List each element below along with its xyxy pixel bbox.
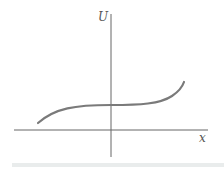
diagram-canvas	[0, 0, 224, 170]
y-axis-label: U	[98, 10, 108, 24]
x-axis-label: x	[199, 131, 206, 145]
bottom-band	[12, 163, 224, 167]
